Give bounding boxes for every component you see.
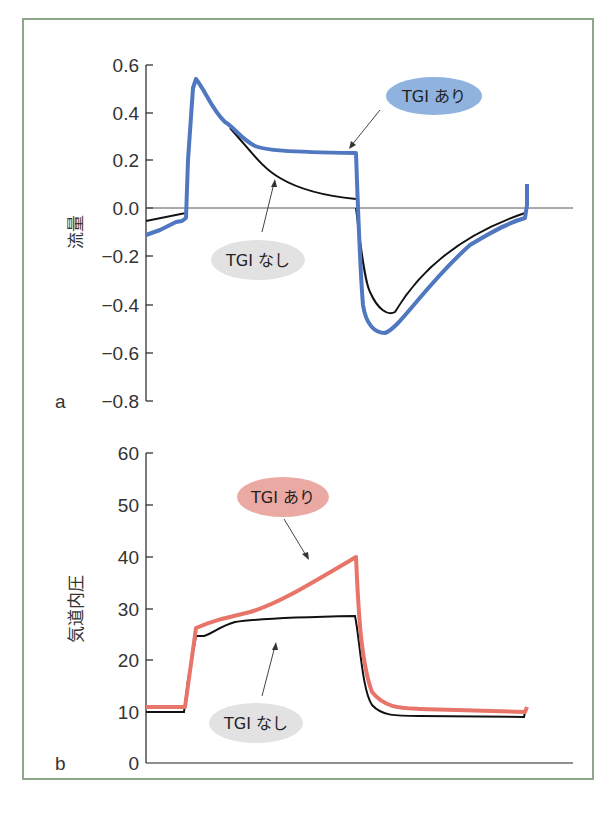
tick-label: 40 — [118, 547, 139, 568]
panel-b: 60 50 40 30 20 10 0 気道内圧 b TGI あり TGI なし — [55, 443, 573, 774]
tick-label: −0.4 — [101, 295, 139, 316]
arrowhead-icon — [271, 179, 277, 187]
tick-label: 60 — [118, 443, 139, 464]
panel-a: 0.6 0.4 0.2 0.0 −0.2 −0.4 −0.6 −0.8 流量 a… — [55, 55, 573, 412]
annotation-text: TGI なし — [223, 714, 288, 733]
chart-canvas: 0.6 0.4 0.2 0.0 −0.2 −0.4 −0.6 −0.8 流量 a… — [0, 0, 616, 815]
tick-label: −0.2 — [101, 246, 139, 267]
annotation-text: TGI あり — [250, 488, 315, 507]
series-flow-tgi-off — [146, 128, 525, 313]
arrowhead-icon — [349, 141, 356, 149]
arrowhead-icon — [302, 552, 309, 560]
y-axis-label-b: 気道内圧 — [66, 575, 86, 643]
series-flow-tgi-on — [146, 79, 527, 333]
panel-label-a: a — [55, 391, 66, 412]
tick-label: 30 — [118, 599, 139, 620]
y-ticks-b — [146, 453, 153, 712]
tick-label: 50 — [118, 495, 139, 516]
tick-label: 0.6 — [113, 55, 139, 76]
tick-label: −0.6 — [101, 343, 139, 364]
tick-label: 0.0 — [113, 198, 139, 219]
annotation-arrow — [262, 646, 275, 696]
annotation-text: TGI なし — [225, 251, 290, 270]
tick-label: 20 — [118, 650, 139, 671]
annotation-arrow — [284, 519, 307, 557]
annotation-arrow — [351, 110, 380, 146]
arrowhead-icon — [272, 642, 278, 650]
annotation-text: TGI あり — [401, 87, 466, 106]
series-pressure-tgi-off — [146, 616, 525, 717]
tick-label: 0.2 — [113, 150, 139, 171]
y-axis-label-a: 流量 — [66, 215, 86, 249]
tick-label: 0 — [128, 753, 139, 774]
panel-label-b: b — [55, 753, 66, 774]
series-pressure-tgi-on — [146, 557, 527, 712]
tick-label: −0.8 — [101, 391, 139, 412]
tick-label: 10 — [118, 702, 139, 723]
tick-label: 0.4 — [113, 103, 140, 124]
